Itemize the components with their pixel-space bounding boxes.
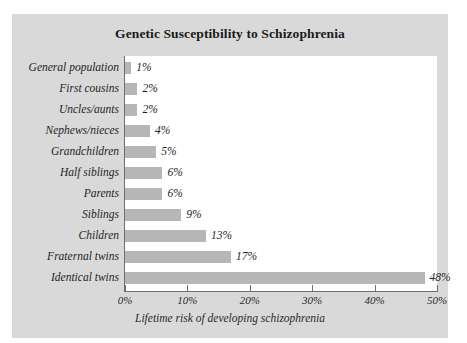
x-tick-label: 20% [220,294,280,306]
bar [125,188,162,200]
x-tick-mark [187,285,188,291]
bar-row: General population1% [12,58,448,79]
bar-row: Identical twins48% [12,268,448,289]
chart-title: Genetic Susceptibility to Schizophrenia [12,26,448,42]
category-label: Parents [12,187,119,199]
category-label: Uncles/aunts [12,103,119,115]
x-tick-label: 0% [95,294,155,306]
bar-value-label: 4% [155,124,170,136]
bar-value-label: 9% [186,208,201,220]
bar [125,146,156,158]
bar-value-label: 6% [167,166,182,178]
x-tick-mark [312,285,313,291]
bar-row: Parents6% [12,184,448,205]
x-tick-label: 10% [157,294,217,306]
bar-row: Nephews/nieces4% [12,121,448,142]
category-label: Siblings [12,208,119,220]
bar [125,83,137,95]
bar [125,230,206,242]
bar [125,272,425,284]
x-axis-line [124,291,438,292]
bar-value-label: 5% [161,145,176,157]
category-label: Fraternal twins [12,250,119,262]
x-tick-label: 40% [345,294,405,306]
bar [125,251,231,263]
bar-row: Children13% [12,226,448,247]
category-label: First cousins [12,82,119,94]
x-tick-mark [375,285,376,291]
x-tick-mark [125,285,126,291]
category-label: General population [12,61,119,73]
bar-row: Grandchildren5% [12,142,448,163]
x-tick-mark [250,285,251,291]
bar-row: Uncles/aunts2% [12,100,448,121]
bar-value-label: 6% [167,187,182,199]
bar-row: Fraternal twins17% [12,247,448,268]
bar-value-label: 2% [142,103,157,115]
bar [125,104,137,116]
bar-row: Siblings9% [12,205,448,226]
x-axis-title: Lifetime risk of developing schizophreni… [12,312,448,324]
x-tick-mark [437,285,438,291]
category-label: Children [12,229,119,241]
bar-value-label: 48% [430,271,451,283]
category-label: Grandchildren [12,145,119,157]
x-tick-label: 50% [407,294,467,306]
bar [125,125,150,137]
category-label: Nephews/nieces [12,124,119,136]
chart-figure: Genetic Susceptibility to Schizophrenia … [12,14,448,338]
x-tick-label: 30% [282,294,342,306]
bar [125,62,131,74]
category-label: Half siblings [12,166,119,178]
bar-row: First cousins2% [12,79,448,100]
bar-value-label: 2% [142,82,157,94]
category-label: Identical twins [12,271,119,283]
bar-value-label: 1% [136,61,151,73]
bar [125,209,181,221]
bar [125,167,162,179]
bar-value-label: 17% [236,250,257,262]
bar-value-label: 13% [211,229,232,241]
bar-row: Half siblings6% [12,163,448,184]
